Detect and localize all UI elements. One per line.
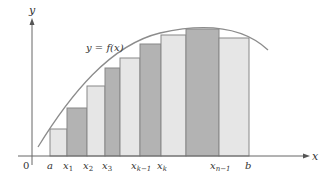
tick-label-xk: xk — [157, 160, 167, 173]
riemann-sum-diagram: y x 0 y = f(x) a x1 x2 x3 xk−1 xk xn−1 b — [0, 0, 326, 175]
rect-7 — [161, 35, 186, 156]
rect-2 — [67, 108, 87, 156]
x-axis-label: x — [312, 150, 319, 163]
rect-8 — [186, 29, 219, 156]
rect-6 — [140, 44, 161, 156]
tick-label-xn-1: xn−1 — [210, 160, 230, 173]
curve-label: y = f(x) — [85, 42, 124, 53]
rect-9 — [219, 38, 249, 156]
riemann-rectangles — [50, 29, 249, 156]
rect-3 — [87, 86, 105, 156]
tick-label-a: a — [47, 160, 53, 171]
rect-1 — [50, 129, 67, 156]
tick-label-xk-1: xk−1 — [131, 160, 151, 173]
origin-label: 0 — [23, 160, 29, 171]
rect-5 — [120, 58, 140, 156]
y-axis-label: y — [28, 4, 36, 17]
tick-label-b: b — [245, 160, 251, 171]
tick-label-x3: x3 — [102, 160, 112, 173]
y-axis-arrow-icon — [30, 18, 35, 25]
tick-label-x1: x1 — [63, 160, 73, 173]
x-axis-arrow-icon — [303, 154, 310, 159]
tick-labels: a x1 x2 x3 xk−1 xk xn−1 b — [47, 160, 251, 173]
tick-label-x2: x2 — [83, 160, 93, 173]
rect-4 — [105, 68, 120, 156]
